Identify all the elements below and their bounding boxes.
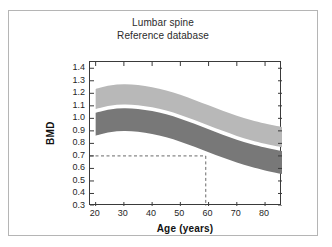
chart-title: Lumbar spine Reference database <box>9 17 317 42</box>
y-tick-label: 0.7 <box>72 150 85 160</box>
x-tick-label: 50 <box>174 208 184 218</box>
y-axis-tick-labels: 0.30.40.50.60.70.80.91.01.11.21.31.4 <box>65 61 85 205</box>
y-tick-label: 1.4 <box>72 62 85 72</box>
x-tick-label: 70 <box>231 208 241 218</box>
x-axis-title: Age (years) <box>89 223 281 234</box>
x-tick-label: 20 <box>90 208 100 218</box>
y-tick-label: 1.3 <box>72 75 85 85</box>
y-tick-label: 1.1 <box>72 100 85 110</box>
y-tick-label: 0.8 <box>72 137 85 147</box>
y-tick-label: 0.9 <box>72 125 85 135</box>
plot-area <box>89 61 281 205</box>
y-tick-label: 0.6 <box>72 162 85 172</box>
plot-canvas <box>90 62 282 206</box>
x-tick-label: 60 <box>203 208 213 218</box>
x-tick-label: 30 <box>118 208 128 218</box>
y-tick-label: 0.4 <box>72 187 85 197</box>
chart-title-line-1: Lumbar spine <box>9 17 317 30</box>
dark-band-area <box>96 108 282 174</box>
y-axis-title: BMD <box>45 61 59 205</box>
x-axis-tick-labels: 20304050607080 <box>89 208 281 220</box>
chart-title-line-2: Reference database <box>9 30 317 43</box>
x-tick-label: 40 <box>146 208 156 218</box>
figure-frame: Lumbar spine Reference database BMD 0.30… <box>8 10 318 236</box>
y-tick-label: 0.5 <box>72 175 85 185</box>
y-tick-label: 1.2 <box>72 87 85 97</box>
y-tick-label: 0.3 <box>72 200 85 210</box>
y-tick-label: 1.0 <box>72 112 85 122</box>
x-tick-label: 80 <box>259 208 269 218</box>
